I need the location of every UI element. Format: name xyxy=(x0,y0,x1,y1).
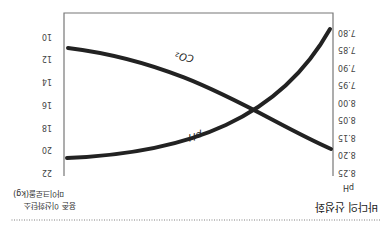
chart-title: 바다의 산성화 xyxy=(315,200,379,213)
plot-frame xyxy=(64,13,333,176)
tick-label: 8.15 xyxy=(338,133,356,142)
left-axis-ticks: 8.25 8.20 8.15 8.05 8.00 7.95 7.90 7.85 … xyxy=(338,28,356,177)
tick-label: 8.00 xyxy=(338,98,356,107)
tick-label: 20 xyxy=(42,145,52,154)
ph-curve-label: pH xyxy=(187,129,204,143)
tick-label: 7.95 xyxy=(338,80,356,89)
tick-label: 7.85 xyxy=(338,45,356,54)
tick-label: 8.05 xyxy=(338,115,356,124)
tick-label: 14 xyxy=(42,77,52,86)
right-axis-label-line2: 마이크로몰(kg) xyxy=(13,189,64,199)
tick-label: 16 xyxy=(42,100,52,109)
tick-label: 12 xyxy=(42,54,52,63)
tick-label: 18 xyxy=(42,123,52,132)
chart-canvas: 바다의 산성화 pH 용존 이산화탄소 마이크로몰(kg) 8.25 8.20 … xyxy=(0,0,390,228)
tick-label: 8.25 xyxy=(338,168,356,177)
right-axis-label-line1: 용존 이산화탄소 xyxy=(24,201,76,211)
co2-curve-label: CO₂ xyxy=(174,50,194,64)
right-axis-ticks: 22 20 18 16 14 12 10 xyxy=(42,32,52,177)
tick-label: 22 xyxy=(42,168,52,177)
tick-label: 10 xyxy=(42,32,52,41)
tick-label: 7.80 xyxy=(338,28,356,37)
tick-label: 7.90 xyxy=(338,63,356,72)
tick-label: 8.20 xyxy=(338,150,356,159)
acidification-chart: 바다의 산성화 pH 용존 이산화탄소 마이크로몰(kg) 8.25 8.20 … xyxy=(0,0,390,228)
left-axis-label: pH xyxy=(343,183,354,192)
